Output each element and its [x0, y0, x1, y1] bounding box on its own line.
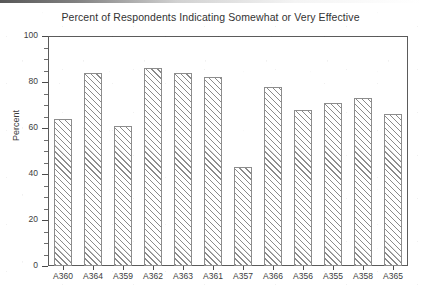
y-axis-tick-label: 0: [4, 260, 38, 270]
bar-chart-figure: Percent of Respondents Indicating Somewh…: [0, 0, 421, 297]
y-axis-minor-tick: [44, 94, 48, 95]
y-axis-tick: [42, 266, 48, 267]
bar: [354, 98, 373, 266]
x-axis-tick: [243, 266, 244, 270]
y-axis-minor-tick: [44, 105, 48, 106]
bar: [234, 167, 253, 266]
bar: [294, 110, 313, 266]
y-axis-minor-tick: [44, 117, 48, 118]
y-axis-tick: [42, 36, 48, 37]
bar: [174, 73, 193, 266]
bar: [54, 119, 73, 266]
x-axis-tick: [213, 266, 214, 270]
y-axis-minor-tick: [44, 140, 48, 141]
y-axis-tick: [42, 220, 48, 221]
y-axis-minor-tick: [44, 151, 48, 152]
x-axis-tick: [93, 266, 94, 270]
bar: [114, 126, 133, 266]
y-axis-minor-tick: [44, 59, 48, 60]
y-axis-minor-tick: [44, 209, 48, 210]
y-axis-minor-tick: [44, 186, 48, 187]
chart-title: Percent of Respondents Indicating Somewh…: [0, 11, 421, 23]
x-axis-tick-label: A365: [373, 271, 413, 281]
bar: [384, 114, 403, 266]
y-axis-minor-tick: [44, 197, 48, 198]
y-axis-tick: [42, 82, 48, 83]
y-axis-tick-label: 80: [4, 76, 38, 86]
y-axis-tick: [42, 128, 48, 129]
y-axis-tick-label: 40: [4, 168, 38, 178]
x-axis-tick: [363, 266, 364, 270]
y-axis-tick: [42, 174, 48, 175]
y-axis-tick-label: 100: [4, 30, 38, 40]
y-axis-tick-label: 20: [4, 214, 38, 224]
x-axis-tick: [63, 266, 64, 270]
x-axis-tick: [333, 266, 334, 270]
x-axis-tick: [303, 266, 304, 270]
y-axis-minor-tick: [44, 255, 48, 256]
bar: [264, 87, 283, 266]
x-axis-tick: [153, 266, 154, 270]
x-axis-tick: [393, 266, 394, 270]
y-axis-minor-tick: [44, 48, 48, 49]
bar: [204, 77, 223, 266]
y-axis-minor-tick: [44, 232, 48, 233]
bar: [84, 73, 103, 266]
y-axis-minor-tick: [44, 163, 48, 164]
bar: [144, 68, 163, 266]
y-axis-tick-label: 60: [4, 122, 38, 132]
x-axis-tick: [273, 266, 274, 270]
y-axis-minor-tick: [44, 71, 48, 72]
x-axis-tick: [123, 266, 124, 270]
x-axis-tick: [183, 266, 184, 270]
y-axis-minor-tick: [44, 243, 48, 244]
bar: [324, 103, 343, 266]
